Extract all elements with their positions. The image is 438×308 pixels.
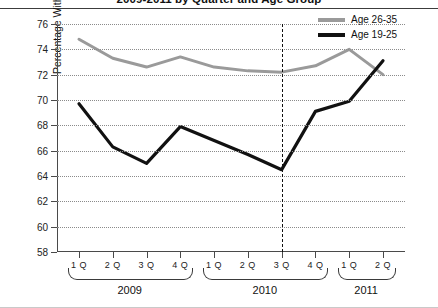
y-axis-line xyxy=(57,24,58,252)
x-axis-tick xyxy=(214,252,215,258)
gridline xyxy=(57,49,405,50)
gridline xyxy=(57,227,405,228)
year-brackets: 200920102011 xyxy=(57,268,405,308)
y-axis-tick-label: 72 xyxy=(37,69,48,80)
series-line-age-26-35 xyxy=(79,39,383,74)
x-axis-tick xyxy=(383,252,384,258)
x-axis-tick xyxy=(282,252,283,258)
y-axis-tick-label: 58 xyxy=(37,247,48,258)
gridline xyxy=(57,125,405,126)
divider-line xyxy=(282,24,283,252)
y-axis-tick-label: 74 xyxy=(37,44,48,55)
data-series-layer xyxy=(57,24,405,252)
y-axis-tick-label: 76 xyxy=(37,19,48,30)
gridline xyxy=(57,151,405,152)
year-label: 2010 xyxy=(253,284,277,296)
plot-area: Percentage With Health Insurance 5860626… xyxy=(57,24,405,252)
y-axis-tick xyxy=(51,201,57,202)
year-bracket xyxy=(68,268,193,280)
y-axis-tick xyxy=(51,151,57,152)
x-axis-line xyxy=(57,251,405,252)
y-axis-tick xyxy=(51,24,57,25)
y-axis-tick xyxy=(51,100,57,101)
x-axis-tick xyxy=(79,252,80,258)
x-axis-tick xyxy=(113,252,114,258)
gridline xyxy=(57,100,405,101)
header-divider xyxy=(0,8,438,9)
x-axis-tick xyxy=(349,252,350,258)
y-axis-tick-label: 68 xyxy=(37,120,48,131)
year-label: 2009 xyxy=(117,284,141,296)
y-axis-tick-label: 66 xyxy=(37,145,48,156)
year-bracket xyxy=(203,268,328,280)
y-axis-tick-label: 70 xyxy=(37,95,48,106)
year-bracket xyxy=(338,268,396,280)
chart-figure: 2009-2011 by Quarter and Age Group Age 2… xyxy=(0,0,438,308)
y-axis-tick xyxy=(51,49,57,50)
gridline xyxy=(57,176,405,177)
x-axis-tick xyxy=(147,252,148,258)
y-axis-tick-label: 60 xyxy=(37,221,48,232)
gridline xyxy=(57,201,405,202)
y-axis-tick-label: 62 xyxy=(37,196,48,207)
gridline xyxy=(57,24,405,25)
y-axis-tick xyxy=(51,176,57,177)
x-axis-tick xyxy=(315,252,316,258)
y-axis-tick xyxy=(51,125,57,126)
y-axis-tick-label: 64 xyxy=(37,171,48,182)
x-axis-tick xyxy=(248,252,249,258)
x-axis-tick xyxy=(180,252,181,258)
year-label: 2011 xyxy=(354,284,378,296)
gridline xyxy=(57,75,405,76)
series-line-age-19-25 xyxy=(79,61,383,170)
y-axis-tick xyxy=(51,227,57,228)
y-axis-tick xyxy=(51,252,57,253)
legend-swatch-gray xyxy=(318,18,345,22)
chart-title: 2009-2011 by Quarter and Age Group xyxy=(0,0,438,5)
y-axis-tick xyxy=(51,75,57,76)
